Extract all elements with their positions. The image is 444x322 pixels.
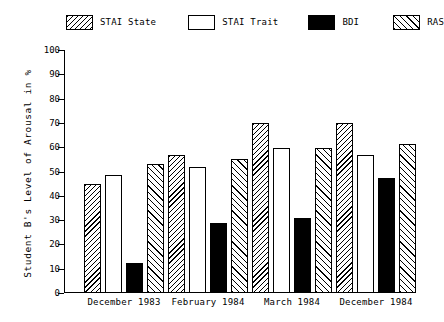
y-tick-label: 10 xyxy=(49,264,60,274)
legend-label-bdi: BDI xyxy=(342,17,359,27)
bar xyxy=(273,148,290,293)
legend-item-bdi: BDI xyxy=(308,15,359,30)
bar-group xyxy=(252,50,339,293)
bar xyxy=(84,184,101,293)
bar xyxy=(126,263,143,293)
y-tick-label: 60 xyxy=(49,142,60,152)
y-tick-label: 70 xyxy=(49,118,60,128)
legend-item-stai-state: STAI State xyxy=(66,15,156,30)
chart-legend: STAI State STAI Trait BDI RAS xyxy=(66,13,396,31)
bar xyxy=(294,218,311,293)
legend-swatch-bdi xyxy=(308,15,335,30)
plot-area: 0102030405060708090100 xyxy=(64,50,401,293)
y-tick-label: 50 xyxy=(49,167,60,177)
y-tick-label: 30 xyxy=(49,215,60,225)
y-tick-label: 80 xyxy=(49,94,60,104)
bar-group xyxy=(336,50,423,293)
x-tick-label: December 1983 xyxy=(87,297,160,307)
legend-label-stai-trait: STAI Trait xyxy=(222,17,278,27)
bar xyxy=(105,175,122,293)
y-axis-title: Student B's Level of Arousal in % xyxy=(22,59,33,289)
legend-swatch-ras xyxy=(393,15,420,30)
bar-group xyxy=(168,50,255,293)
bar xyxy=(231,159,248,293)
bar xyxy=(147,164,164,293)
x-tick-label: February 1984 xyxy=(171,297,244,307)
x-tick-label: March 1984 xyxy=(264,297,320,307)
y-tick-label: 0 xyxy=(55,288,60,298)
bar xyxy=(378,178,395,293)
bar xyxy=(210,223,227,293)
y-tick-label: 90 xyxy=(49,69,60,79)
bar-group xyxy=(84,50,171,293)
legend-item-stai-trait: STAI Trait xyxy=(188,15,278,30)
legend-swatch-stai-state xyxy=(66,15,93,30)
bar xyxy=(252,123,269,293)
legend-label-stai-state: STAI State xyxy=(100,17,156,27)
legend-item-ras: RAS xyxy=(393,15,444,30)
legend-swatch-stai-trait xyxy=(188,15,215,30)
x-tick-label: December 1984 xyxy=(339,297,412,307)
y-tick-label: 40 xyxy=(49,191,60,201)
bar xyxy=(399,144,416,293)
bar xyxy=(189,167,206,293)
bar xyxy=(315,148,332,293)
y-tick-label: 20 xyxy=(49,239,60,249)
bar xyxy=(357,155,374,294)
y-tick-label: 100 xyxy=(44,45,60,55)
bar xyxy=(336,123,353,293)
x-axis-labels: December 1983February 1984March 1984Dece… xyxy=(64,297,401,313)
legend-label-ras: RAS xyxy=(427,17,444,27)
bar xyxy=(168,155,185,294)
bar-groups xyxy=(64,50,401,293)
